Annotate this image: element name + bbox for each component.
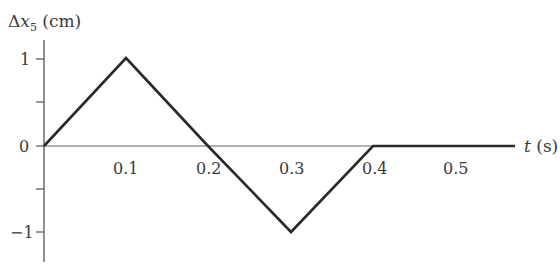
x-tick-label: 0.1 [113,159,138,178]
x-tick-label: 0.5 [443,159,468,178]
y-tick-label: 1 [20,50,30,69]
y-tick-label: −1 [10,223,34,242]
data-series-line [44,58,515,232]
y-axis-label: Δx5 (cm) [8,11,81,34]
y-tick-label: 0 [19,137,29,156]
x-axis-label: t (s) [524,136,558,156]
x-tick-label: 0.3 [279,159,304,178]
x-tick-label: 0.4 [362,159,387,178]
displacement-chart: Δx5 (cm) 1 0 −1 0.1 0.2 0.3 0.4 0.5 t (s… [0,0,560,277]
x-tick-label: 0.2 [196,159,221,178]
